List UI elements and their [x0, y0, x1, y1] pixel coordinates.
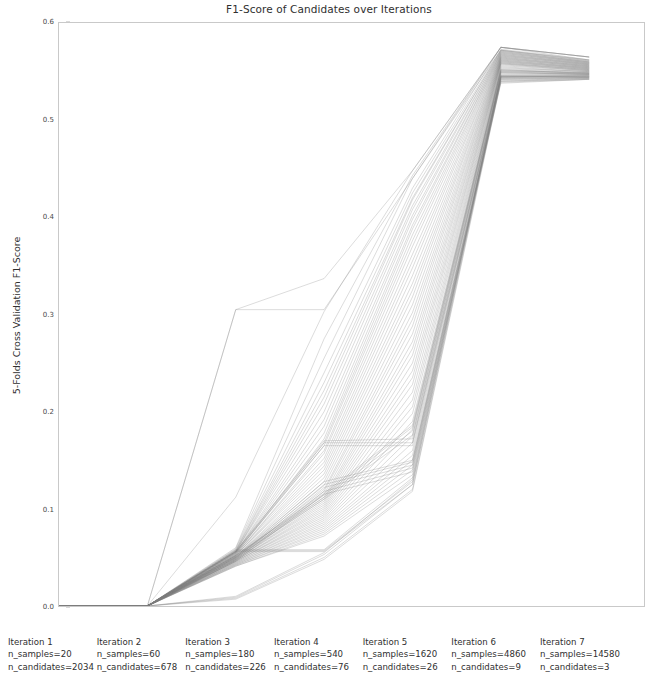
x-tick-n-candidates: n_candidates=678	[97, 661, 177, 673]
x-tick-iteration-label: Iteration 7	[540, 636, 620, 648]
series-line	[59, 69, 589, 606]
x-tick-n-candidates: n_candidates=2034	[8, 661, 94, 673]
series-line	[59, 55, 589, 606]
x-tick-n-candidates: n_candidates=76	[274, 661, 349, 673]
x-tick-n-samples: n_samples=20	[8, 648, 94, 660]
x-tick-n-samples: n_samples=14580	[540, 648, 620, 660]
x-tick-iteration-label: Iteration 5	[363, 636, 438, 648]
series-line	[59, 52, 589, 606]
x-tick-group-3: Iteration 3n_samples=180n_candidates=226	[185, 636, 265, 673]
series-line	[59, 58, 589, 606]
series-line	[59, 78, 589, 606]
y-tick-label: 0.4	[20, 213, 54, 221]
series-line	[59, 56, 589, 606]
series-line	[59, 57, 589, 606]
series-line	[59, 70, 589, 606]
series-line	[59, 56, 589, 606]
y-tick-label: 0.3	[20, 311, 54, 319]
x-tick-iteration-label: Iteration 1	[8, 636, 94, 648]
chart-title: F1-Score of Candidates over Iterations	[0, 3, 658, 15]
series-line	[59, 58, 589, 606]
y-tick-label: 0.6	[20, 18, 54, 26]
x-tick-n-candidates: n_candidates=26	[363, 661, 438, 673]
plot-area	[58, 22, 645, 607]
series-line	[59, 65, 589, 606]
series-line	[59, 54, 589, 606]
series-line	[59, 53, 589, 606]
x-tick-iteration-label: Iteration 3	[185, 636, 265, 648]
x-tick-group-5: Iteration 5n_samples=1620n_candidates=26	[363, 636, 438, 673]
x-tick-n-candidates: n_candidates=226	[185, 661, 265, 673]
x-tick-n-candidates: n_candidates=3	[540, 661, 620, 673]
line-series-svg	[59, 23, 644, 606]
series-line	[59, 67, 589, 606]
series-line	[59, 78, 589, 606]
x-tick-n-samples: n_samples=180	[185, 648, 265, 660]
x-tick-group-7: Iteration 7n_samples=14580n_candidates=3	[540, 636, 620, 673]
x-tick-group-1: Iteration 1n_samples=20n_candidates=2034	[8, 636, 94, 673]
y-axis-ticks: 0.00.10.20.30.40.50.6	[12, 0, 54, 676]
x-tick-iteration-label: Iteration 2	[97, 636, 177, 648]
y-tick-label: 0.2	[20, 408, 54, 416]
x-tick-n-candidates: n_candidates=9	[451, 661, 526, 673]
series-line	[59, 79, 589, 606]
y-tick-label: 0.1	[20, 506, 54, 514]
series-line	[59, 68, 589, 606]
series-line	[59, 55, 589, 606]
y-tick-label: 0.5	[20, 116, 54, 124]
series-line	[59, 79, 589, 606]
y-tick-label: 0.0	[20, 603, 54, 611]
series-line	[59, 57, 589, 606]
x-tick-iteration-label: Iteration 4	[274, 636, 349, 648]
series-line	[59, 52, 589, 606]
x-tick-n-samples: n_samples=4860	[451, 648, 526, 660]
x-tick-n-samples: n_samples=540	[274, 648, 349, 660]
x-tick-group-2: Iteration 2n_samples=60n_candidates=678	[97, 636, 177, 673]
x-tick-group-6: Iteration 6n_samples=4860n_candidates=9	[451, 636, 526, 673]
x-tick-n-samples: n_samples=1620	[363, 648, 438, 660]
x-tick-group-4: Iteration 4n_samples=540n_candidates=76	[274, 636, 349, 673]
figure-canvas: F1-Score of Candidates over Iterations 5…	[0, 0, 658, 676]
x-tick-iteration-label: Iteration 6	[451, 636, 526, 648]
series-line	[59, 66, 589, 606]
series-line	[59, 79, 589, 606]
x-axis-tick-labels: Iteration 1n_samples=20n_candidates=2034…	[0, 636, 658, 676]
series-line	[59, 54, 589, 606]
series-line	[59, 70, 589, 606]
series-line	[59, 53, 589, 606]
series-line	[59, 78, 589, 606]
x-tick-n-samples: n_samples=60	[97, 648, 177, 660]
